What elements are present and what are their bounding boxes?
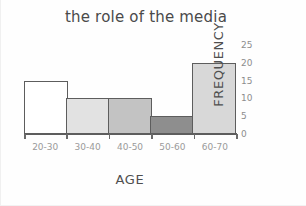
x-axis-line bbox=[24, 133, 237, 135]
x-tick-mark bbox=[151, 134, 153, 139]
bar-series bbox=[24, 45, 236, 134]
y-axis-title: FREQUENCY bbox=[211, 17, 225, 112]
chart-figure: the role of the media 0510152025 FREQUEN… bbox=[0, 0, 306, 206]
x-tick-mark bbox=[194, 134, 196, 139]
chart-title: the role of the media bbox=[1, 8, 291, 26]
y-tick-label-15: 15 bbox=[241, 76, 259, 86]
x-tick-label-30-40: 30-40 bbox=[66, 142, 108, 152]
bar-30-40 bbox=[66, 98, 110, 134]
bar-40-50 bbox=[108, 98, 152, 134]
y-tick-label-0: 0 bbox=[241, 129, 259, 139]
y-axis-tick-labels: 0510152025 bbox=[241, 45, 259, 134]
x-tick-mark bbox=[109, 134, 111, 139]
bar-50-60 bbox=[150, 116, 194, 134]
x-axis-title: AGE bbox=[24, 172, 236, 187]
y-tick-label-20: 20 bbox=[241, 58, 259, 68]
x-tick-mark bbox=[66, 134, 68, 139]
y-tick-label-10: 10 bbox=[241, 93, 259, 103]
x-tick-label-50-60: 50-60 bbox=[151, 142, 193, 152]
y-tick-label-5: 5 bbox=[241, 111, 259, 121]
x-tick-label-40-50: 40-50 bbox=[109, 142, 151, 152]
x-tick-label-20-30: 20-30 bbox=[24, 142, 66, 152]
y-tick-label-25: 25 bbox=[241, 40, 259, 50]
x-tick-label-60-70: 60-70 bbox=[194, 142, 236, 152]
x-tick-mark bbox=[236, 134, 238, 139]
y-axis-line bbox=[235, 45, 237, 134]
x-axis-tick-labels: 20-3030-4040-5050-6060-70 bbox=[24, 142, 236, 152]
plot-area bbox=[24, 45, 236, 134]
x-tick-mark bbox=[24, 134, 26, 139]
bar-20-30 bbox=[24, 81, 68, 134]
